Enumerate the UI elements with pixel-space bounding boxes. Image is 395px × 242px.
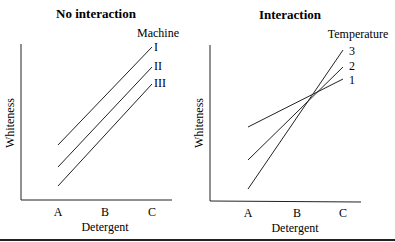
right-tick-b: B <box>293 206 301 220</box>
right-x-label: Detergent <box>271 221 319 235</box>
right-y-label: Whiteness <box>192 98 206 148</box>
right-legend-title: Temperature <box>328 27 388 41</box>
left-legend-title: Machine <box>137 26 179 40</box>
label-temperature-2: 2 <box>349 59 355 73</box>
right-chart: Interaction Whiteness A B C Detergent Te… <box>192 7 388 235</box>
right-tick-a: A <box>244 206 253 220</box>
left-tick-b: B <box>101 205 109 219</box>
right-title: Interaction <box>259 7 322 22</box>
label-machine-ii: II <box>154 59 162 73</box>
left-tick-a: A <box>54 205 63 219</box>
label-machine-i: I <box>154 40 158 54</box>
line-machine-iii <box>58 84 152 186</box>
right-x-axis <box>210 201 361 202</box>
left-x-label: Detergent <box>81 220 129 234</box>
right-tick-c: C <box>339 206 347 220</box>
line-machine-ii <box>58 67 152 167</box>
line-machine-i <box>58 47 152 145</box>
left-chart: No interaction Whiteness A B C Detergent… <box>3 6 179 234</box>
label-temperature-3: 3 <box>349 44 355 58</box>
label-machine-iii: III <box>154 76 166 90</box>
left-tick-c: C <box>148 205 156 219</box>
left-y-label: Whiteness <box>3 98 17 148</box>
label-temperature-1: 1 <box>349 73 355 87</box>
figure: No interaction Whiteness A B C Detergent… <box>0 0 395 242</box>
line-temperature-2 <box>248 67 343 160</box>
left-title: No interaction <box>56 6 137 21</box>
